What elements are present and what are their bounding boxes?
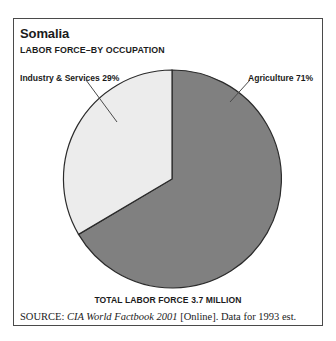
pie-chart-figure: Somalia LABOR FORCE–BY OCCUPATION Indust… <box>0 0 336 341</box>
slice-label-agriculture: Agriculture 71% <box>248 73 313 83</box>
total-labor-force-caption: TOTAL LABOR FORCE 3.7 MILLION <box>8 295 327 305</box>
source-publication: CIA World Factbook 2001 <box>67 311 178 322</box>
source-label: SOURCE: <box>20 311 64 322</box>
source-line: SOURCE: CIA World Factbook 2001 [Online]… <box>20 311 296 322</box>
pie-chart-graphic <box>0 0 336 341</box>
slice-label-industry-services: Industry & Services 29% <box>20 73 119 83</box>
source-rest: [Online]. Data for 1993 est. <box>178 311 297 322</box>
